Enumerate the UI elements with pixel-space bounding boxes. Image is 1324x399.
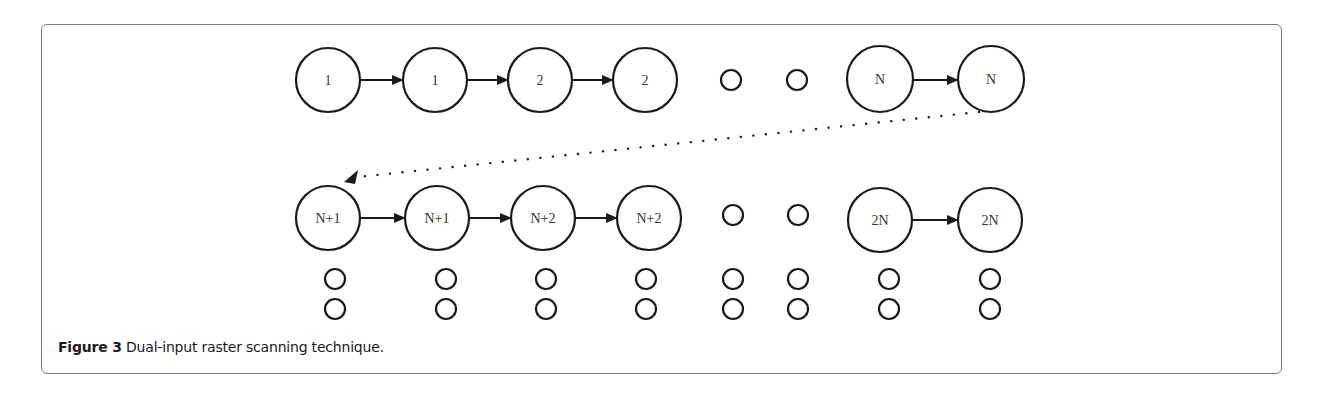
svg-text:1: 1	[325, 73, 332, 88]
svg-text:N: N	[875, 72, 885, 87]
continuation-dots	[325, 269, 1000, 319]
svg-text:N+2: N+2	[530, 211, 555, 226]
node-1a: 1	[296, 48, 360, 112]
row-1: 1 1 2 2 N N	[296, 46, 1024, 112]
node-2Na: 2N	[848, 188, 912, 252]
svg-text:N+1: N+1	[424, 211, 449, 226]
ellipsis-dot	[721, 70, 741, 90]
svg-text:1: 1	[432, 73, 439, 88]
node-Nb: N	[958, 46, 1024, 112]
svg-text:N+2: N+2	[636, 211, 661, 226]
node-N1a: N+1	[296, 186, 360, 250]
dotted-return-line	[348, 112, 979, 178]
node-N2b: N+2	[617, 186, 681, 250]
figure-caption-text: Dual-input raster scanning technique.	[126, 339, 384, 355]
node-2b: 2	[613, 48, 677, 112]
return-arrowhead-icon	[344, 170, 358, 184]
figure-label: Figure 3	[58, 339, 122, 355]
svg-text:N+1: N+1	[315, 211, 340, 226]
svg-text:2: 2	[537, 73, 544, 88]
ellipsis-dot	[723, 205, 743, 225]
svg-text:2N: 2N	[981, 213, 998, 228]
ellipsis-dot	[788, 205, 808, 225]
row-2: N+1 N+1 N+2 N+2 2N 2N	[296, 186, 1022, 252]
node-Na: N	[847, 46, 913, 112]
svg-text:2N: 2N	[871, 213, 888, 228]
node-2a: 2	[508, 48, 572, 112]
node-N2a: N+2	[511, 186, 575, 250]
node-N1b: N+1	[405, 186, 469, 250]
svg-text:N: N	[986, 72, 996, 87]
figure-caption: Figure 3 Dual-input raster scanning tech…	[58, 339, 384, 355]
svg-text:2: 2	[642, 73, 649, 88]
node-2Nb: 2N	[958, 188, 1022, 252]
ellipsis-dot	[787, 70, 807, 90]
node-1b: 1	[403, 48, 467, 112]
